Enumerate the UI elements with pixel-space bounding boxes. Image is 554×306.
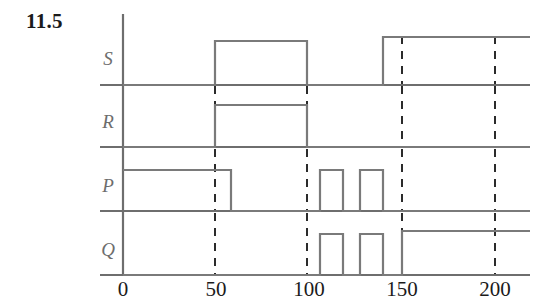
x-tick-label-100: 100 (293, 277, 325, 302)
waveform-s (123, 37, 530, 85)
x-tick-label-150: 150 (386, 277, 418, 302)
x-tick-label-200: 200 (479, 277, 511, 302)
signal-label-q: Q (96, 239, 120, 261)
waveform-p (123, 170, 530, 211)
x-tick-label-50: 50 (206, 277, 227, 302)
waveform-canvas (0, 0, 554, 306)
x-tick-label-0: 0 (118, 277, 129, 302)
waveform-r (123, 105, 530, 147)
waveform-q (123, 231, 530, 275)
timing-diagram-figure: 11.5 (0, 0, 554, 306)
signal-label-r: R (96, 111, 120, 133)
signal-label-s: S (96, 48, 120, 70)
signal-label-p: P (96, 175, 120, 197)
